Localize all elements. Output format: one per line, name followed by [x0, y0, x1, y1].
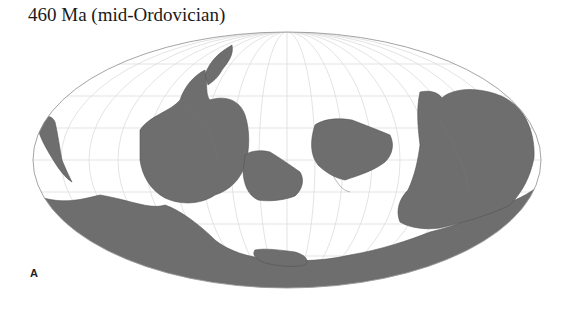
panel-label: A — [30, 267, 38, 279]
western-terrane — [38, 116, 72, 182]
central-terrane-1 — [243, 151, 302, 201]
laurentia — [140, 70, 249, 203]
paleogeographic-map — [0, 0, 565, 316]
laurentia-north-arm — [205, 45, 232, 85]
